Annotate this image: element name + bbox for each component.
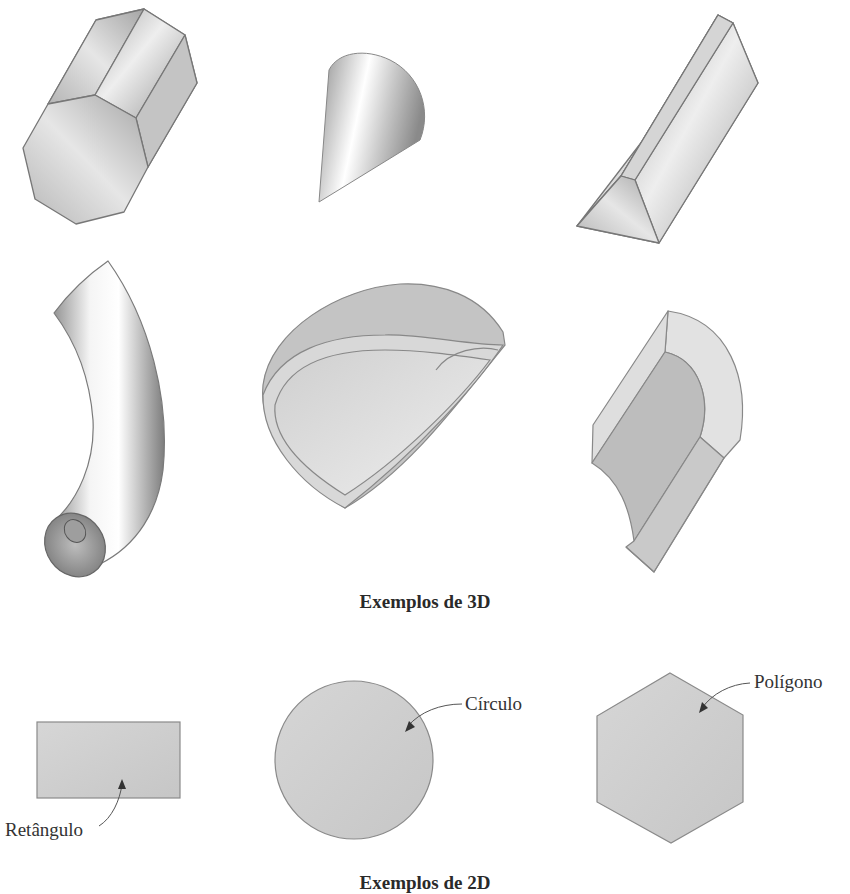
curved-tube-shape [32,261,164,589]
rounded-channel-shape [592,311,742,572]
triangular-prism-shape [577,15,758,243]
octagonal-prism-shape [23,9,197,224]
hollow-shell-section-shape [263,284,505,508]
cone-section-shape [319,53,425,202]
circle-shape [275,681,462,839]
polygon-shape [597,673,750,843]
label-polygon: Polígono [754,671,823,693]
label-rectangle: Retângulo [5,819,83,841]
rectangle-shape [37,722,180,826]
caption-3d: Exemplos de 3D [325,591,525,613]
label-circle: Círculo [465,693,522,715]
caption-2d: Exemplos de 2D [325,872,525,894]
